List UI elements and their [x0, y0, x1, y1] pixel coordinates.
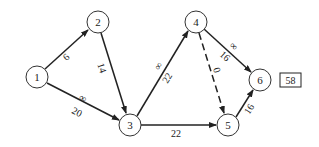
edge-label-4-6: 16 [218, 49, 233, 64]
node-label: 2 [95, 16, 101, 28]
node-label: 1 [34, 71, 40, 83]
edge-1-2 [45, 30, 88, 69]
edge-label-3-5: 22 [171, 128, 181, 139]
node-1: 1 [26, 66, 48, 88]
node-3: 3 [119, 114, 141, 136]
edge-4-5-dummy [199, 33, 224, 113]
node-label: 3 [127, 119, 133, 131]
edge-label-4-5: 0 [211, 66, 223, 74]
critical-mark-4-6: ∞ [228, 40, 241, 53]
edge-label-1-2: 6 [60, 51, 71, 63]
node-2: 2 [87, 11, 109, 33]
critical-mark-1-3: ∞ [77, 91, 88, 104]
edge-label-1-3: 20 [70, 105, 84, 119]
node-label: 5 [225, 119, 231, 131]
node-6: 6 [249, 69, 271, 91]
edge-label-2-3: 14 [95, 62, 109, 75]
critical-mark-3-4: ∞ [151, 60, 164, 72]
node-5: 5 [217, 114, 239, 136]
edge-2-3 [101, 33, 126, 113]
diagram-canvas: 6 14 20 ∞ 22 ∞ 22 0 16 ∞ 16 1 2 3 4 5 6 … [0, 0, 319, 147]
total-duration-box: 58 [280, 73, 301, 87]
node-label: 4 [193, 16, 199, 28]
total-duration-value: 58 [286, 75, 296, 86]
edge-label-3-4: 22 [160, 71, 175, 85]
node-4: 4 [185, 11, 207, 33]
node-label: 6 [257, 74, 263, 86]
network-diagram: 6 14 20 ∞ 22 ∞ 22 0 16 ∞ 16 1 2 3 4 5 6 … [0, 0, 319, 147]
